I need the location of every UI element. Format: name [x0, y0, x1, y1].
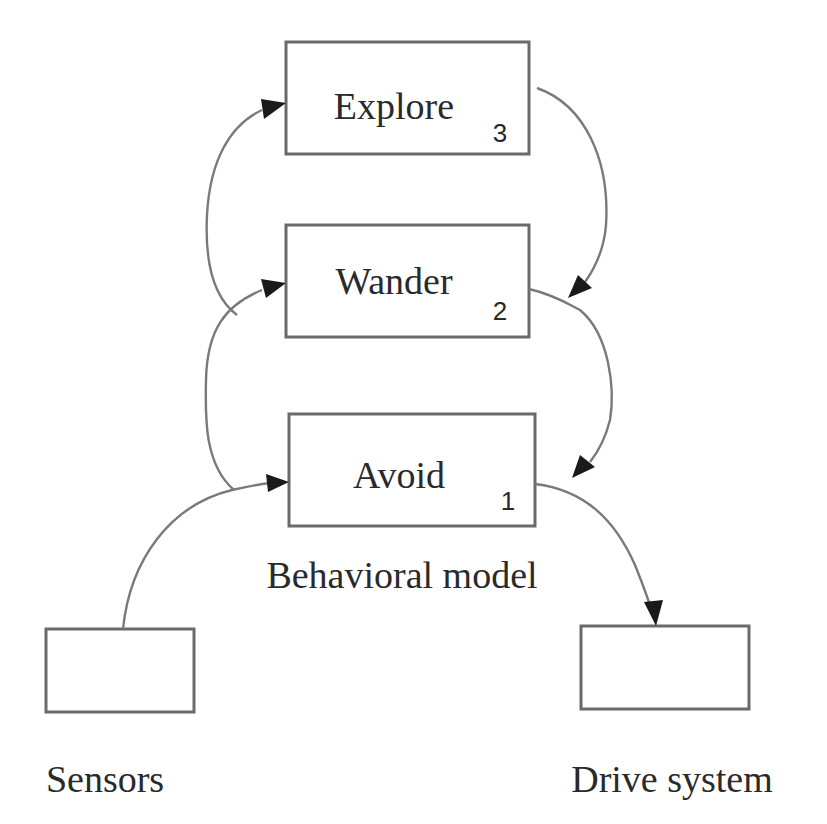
sensors-node: Sensors: [46, 629, 194, 800]
drive-system-label: Drive system: [571, 758, 773, 800]
sensors-label: Sensors: [46, 758, 164, 800]
edge-explore-output: [537, 88, 606, 282]
layer-wander: Wander 2: [286, 225, 529, 337]
layer-avoid: Avoid 1: [289, 414, 535, 526]
edge-wander-output: [529, 289, 612, 462]
explore-label: Explore: [334, 85, 454, 127]
wander-label: Wander: [335, 260, 453, 302]
edge-sensors-to-avoid: [123, 483, 270, 629]
explore-level: 3: [493, 118, 507, 148]
drive-system-box: [581, 626, 749, 709]
arrowhead-into-avoid: [266, 474, 289, 492]
arrowhead-into-explore: [261, 99, 286, 119]
behavioral-model-caption: Behavioral model: [266, 554, 537, 596]
wander-level: 2: [493, 296, 507, 326]
layer-explore: Explore 3: [286, 42, 529, 154]
edge-avoid-to-drive: [535, 484, 652, 612]
behavior-diagram: Explore 3 Wander 2 Avoid 1 Behavioral mo…: [0, 0, 827, 824]
sensors-box: [46, 629, 194, 712]
avoid-level: 1: [501, 486, 515, 516]
drive-system-node: Drive system: [571, 626, 773, 800]
arrowhead-into-drive: [644, 600, 663, 626]
edge-junction-to-wander: [206, 290, 262, 490]
arrowhead-into-wander: [261, 279, 286, 298]
edge-junction-to-explore: [207, 110, 262, 315]
avoid-label: Avoid: [353, 454, 445, 496]
